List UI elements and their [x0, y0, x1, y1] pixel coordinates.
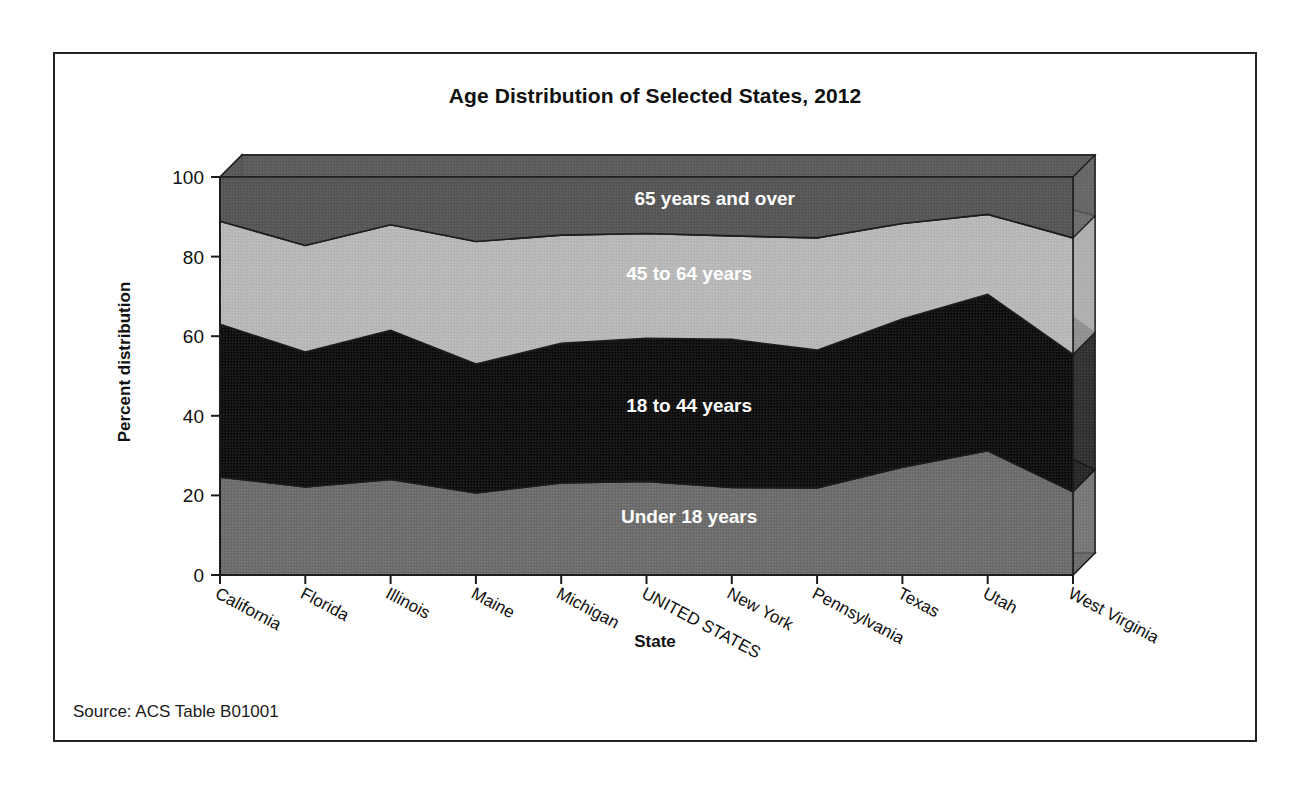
- x-tick-label: New York: [724, 584, 797, 635]
- y-tick-label: 0: [193, 565, 204, 586]
- area-side-2: [1073, 333, 1095, 492]
- y-tick-label: 100: [172, 167, 204, 188]
- x-tick-label: California: [212, 584, 285, 635]
- y-tick-label: 80: [183, 247, 204, 268]
- x-tick-label: Florida: [297, 584, 352, 625]
- series-label-2: 45 to 64 years: [626, 263, 752, 284]
- y-tick-label: 20: [183, 485, 204, 506]
- area-depth-4: [220, 155, 1095, 177]
- x-tick-label: Texas: [895, 584, 943, 622]
- series-label-1: 65 years and over: [634, 188, 795, 209]
- series-label-3: 18 to 44 years: [626, 395, 752, 416]
- stacked-area-chart: 020406080100CaliforniaFloridaIllinoisMai…: [55, 54, 1255, 740]
- chart-page: Age Distribution of Selected States, 201…: [0, 0, 1312, 787]
- x-tick-label: Pennsylvania: [809, 584, 908, 649]
- x-tick-label: Illinois: [383, 584, 434, 623]
- series-label-4: Under 18 years: [621, 506, 757, 527]
- y-tick-label: 40: [183, 406, 204, 427]
- x-tick-label: Maine: [468, 584, 518, 623]
- area-side-3: [1073, 216, 1095, 355]
- x-tick-label: Michigan: [553, 584, 622, 633]
- x-tick-label: Utah: [980, 584, 1021, 618]
- x-tick-label: West Virginia: [1065, 584, 1162, 648]
- y-tick-label: 60: [183, 326, 204, 347]
- figure-frame: Age Distribution of Selected States, 201…: [53, 52, 1257, 742]
